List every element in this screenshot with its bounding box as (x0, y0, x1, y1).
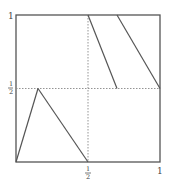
triangle-right-edge (38, 89, 88, 163)
x-label-one: 1 (157, 166, 163, 176)
diagram-canvas: 1 1 2 1 2 1 (0, 0, 169, 189)
x-label-half-numerator: 1 (86, 165, 90, 173)
upper-line-1 (88, 15, 117, 89)
y-label-half-numerator: 1 (9, 80, 13, 88)
y-label-half-denominator: 2 (9, 88, 13, 96)
x-label-half-denominator: 2 (86, 173, 90, 181)
triangle-left-edge (16, 89, 38, 163)
y-label-one: 1 (8, 11, 14, 21)
upper-line-2 (117, 15, 160, 89)
